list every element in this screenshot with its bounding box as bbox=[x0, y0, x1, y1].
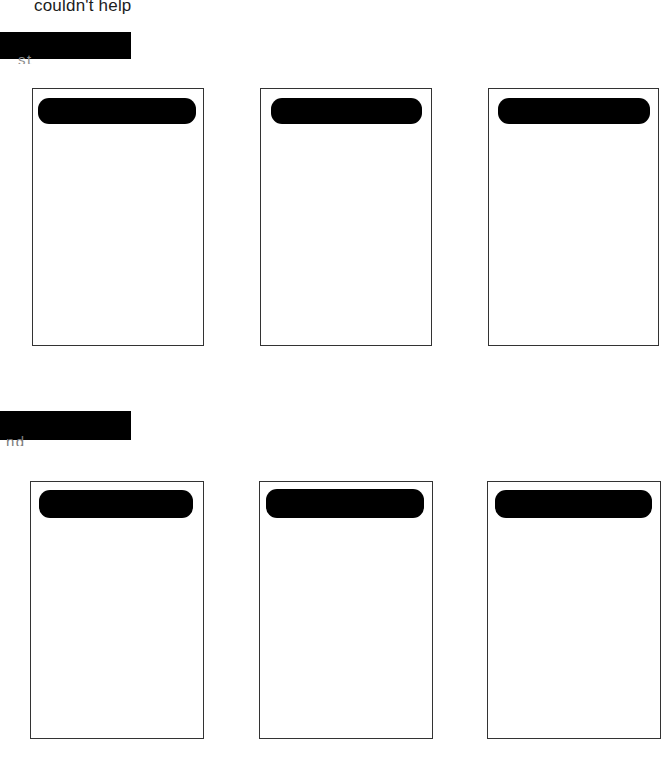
card-1-1[interactable] bbox=[32, 88, 204, 346]
card-header-redaction-bar bbox=[266, 489, 424, 518]
card-body bbox=[31, 524, 203, 738]
card-header-redaction-bar bbox=[498, 98, 650, 124]
clipped-body-text: couldn't help bbox=[34, 0, 132, 17]
card-header-redaction-bar bbox=[271, 98, 422, 124]
card-header-redaction-bar bbox=[38, 98, 196, 124]
card-body bbox=[489, 131, 658, 345]
section-heading-remnant-2: nd bbox=[6, 434, 186, 446]
card-header-redaction-bar bbox=[39, 490, 193, 518]
card-body bbox=[488, 524, 660, 738]
document-page: couldn't help st nd bbox=[0, 0, 669, 777]
card-header-redaction-bar bbox=[495, 490, 652, 518]
card-body bbox=[261, 131, 431, 345]
card-row-2 bbox=[0, 481, 669, 741]
card-body bbox=[260, 524, 432, 738]
card-1-2[interactable] bbox=[260, 88, 432, 346]
card-2-3[interactable] bbox=[487, 481, 661, 739]
card-1-3[interactable] bbox=[488, 88, 659, 346]
card-2-2[interactable] bbox=[259, 481, 433, 739]
card-body bbox=[33, 131, 203, 345]
card-row-1 bbox=[0, 88, 669, 348]
section-heading-remnant-1: st bbox=[18, 52, 198, 64]
card-2-1[interactable] bbox=[30, 481, 204, 739]
